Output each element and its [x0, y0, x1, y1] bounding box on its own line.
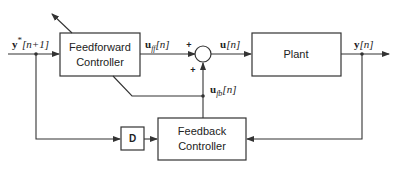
feedforward-label-line1: Feedforward	[69, 41, 131, 53]
ufb-signal-label: ufb[n]	[210, 83, 236, 98]
feedforward-label-line2: Controller	[76, 56, 124, 68]
plant-label: Plant	[283, 48, 308, 60]
svg-text:uff[n]: uff[n]	[145, 38, 170, 53]
sum-sign-top: +	[186, 40, 191, 50]
ufb-tap-dot	[201, 94, 205, 98]
feedback-label-line2: Controller	[178, 140, 226, 152]
summing-junction	[195, 46, 211, 62]
feedforward-controller-block	[60, 33, 140, 76]
svg-text:ufb[n]: ufb[n]	[210, 83, 236, 98]
ufb-to-feedforward-wire	[113, 76, 203, 96]
svg-text:y*[n+1]: y*[n+1]	[12, 35, 49, 50]
u-signal-label: u[n]	[220, 38, 240, 50]
svg-text:y[n]: y[n]	[354, 38, 374, 50]
block-diagram: Feedforward Controller + + Plant D Feedb…	[0, 0, 398, 171]
sum-sign-bottom: +	[190, 65, 195, 75]
feedback-label-line1: Feedback	[178, 125, 227, 137]
adaptation-arrow	[52, 14, 72, 33]
uff-signal-label: uff[n]	[145, 38, 170, 53]
reference-signal-label: y*[n+1]	[12, 35, 49, 50]
output-signal-label: y[n]	[354, 38, 374, 50]
svg-text:u[n]: u[n]	[220, 38, 240, 50]
delay-label: D	[129, 133, 136, 144]
